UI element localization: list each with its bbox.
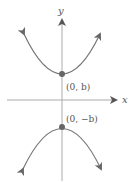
upper-vertex-label: (0, b) [66,82,90,92]
upper-vertex-point [59,71,65,77]
lower-vertex-point [59,124,65,130]
y-axis-label: y [57,5,64,16]
x-axis-label: x [122,94,128,105]
lower-vertex-label: (0, −b) [66,114,98,124]
hyperbola-diagram: y x (0, b) (0, −b) [0,0,137,182]
